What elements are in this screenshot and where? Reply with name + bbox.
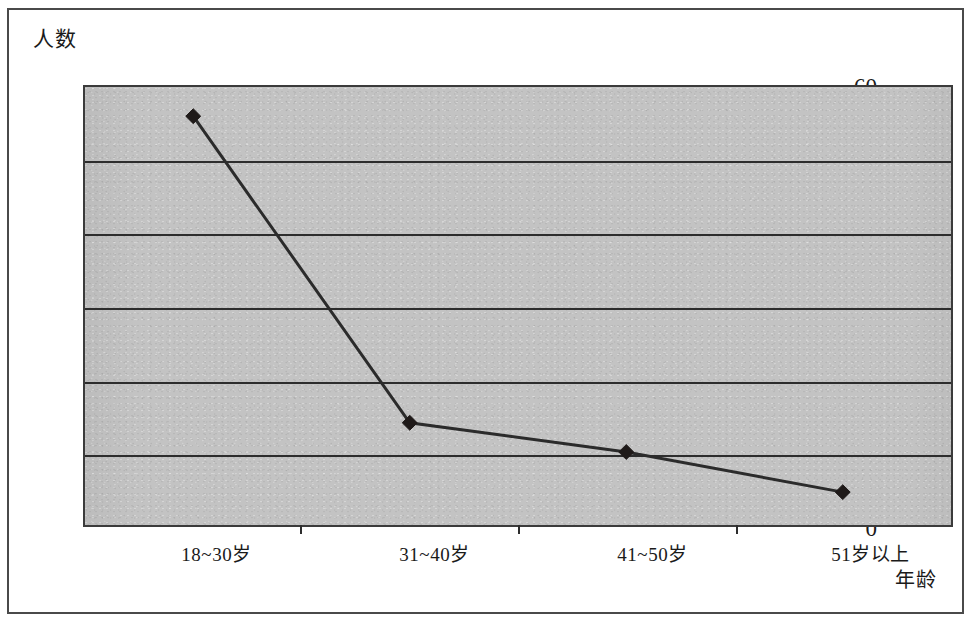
- chart-figure: 人数 60 50 40 30 20 10 0 18~30岁 31~40岁 41~…: [0, 0, 973, 621]
- x-tick-label-2: 41~50岁: [545, 545, 760, 564]
- plot-area: [83, 85, 953, 527]
- gridline-10: [85, 455, 951, 457]
- gridline-40: [85, 234, 951, 236]
- x-axis-title: 年龄: [895, 570, 937, 590]
- x-tick-label-1: 31~40岁: [327, 545, 542, 564]
- gridline-30: [85, 308, 951, 310]
- x-axis-tick-2: [518, 525, 520, 534]
- x-tick-label-0: 18~30岁: [109, 545, 324, 564]
- x-axis-tick-1: [300, 525, 302, 534]
- data-series-line: [85, 87, 951, 525]
- gridline-50: [85, 161, 951, 163]
- gridline-20: [85, 382, 951, 384]
- x-tick-label-3: 51岁以上: [763, 545, 973, 564]
- scan-texture-overlay: [85, 87, 951, 525]
- data-point-marker-3: [835, 485, 850, 500]
- data-point-marker-0: [186, 109, 201, 124]
- x-axis-tick-3: [736, 525, 738, 534]
- data-point-marker-1: [402, 415, 417, 430]
- y-axis-title: 人数: [33, 29, 77, 50]
